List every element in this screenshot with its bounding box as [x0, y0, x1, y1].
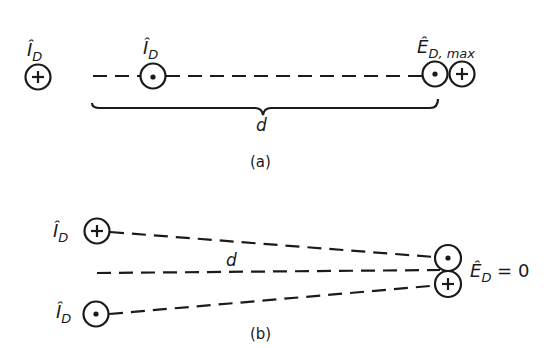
- dashed-line-bottom: [109, 286, 430, 314]
- dashed-line-top: [110, 232, 434, 257]
- cross-conductor-icon: [26, 65, 51, 90]
- middle-current-label: ÎD: [143, 37, 158, 62]
- top-current-label: ÎD: [53, 220, 68, 245]
- dot-conductor-icon: [423, 62, 448, 87]
- caption-b: (b): [250, 325, 271, 343]
- dot-conductor-icon: [435, 245, 461, 271]
- cross-conductor-icon: [435, 271, 461, 297]
- dot-conductor-icon: [141, 64, 166, 89]
- distance-brace: [92, 99, 438, 115]
- panel-b: ÎD ÎD d ÊD = 0 (b): [53, 219, 529, 344]
- caption-a: (a): [250, 153, 271, 171]
- left-current-label: ÎD: [27, 39, 42, 64]
- distance-label: d: [256, 115, 267, 135]
- max-field-label: ÊD, max: [417, 36, 475, 61]
- panel-a: ÎD ÎD ÊD, max d (a): [26, 36, 476, 171]
- cross-conductor-icon: [85, 219, 110, 244]
- distance-label: d: [226, 250, 237, 270]
- cross-conductor-icon: [450, 62, 475, 87]
- zero-field-label: ÊD = 0: [470, 260, 529, 285]
- bottom-current-label: ÎD: [56, 301, 71, 326]
- dot-conductor-icon: [84, 302, 109, 327]
- dashed-line-middle: [97, 270, 440, 273]
- diagram-canvas: ÎD ÎD ÊD, max d (a): [0, 0, 556, 348]
